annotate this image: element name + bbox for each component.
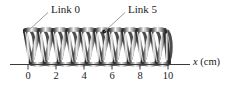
annotation-label-link-5: Link 5 [128, 4, 157, 15]
x-axis-units: (cm) [200, 56, 220, 67]
spring-turn-tops [25, 29, 165, 31]
tick-label-4: 4 [81, 71, 86, 82]
x-axis-label: x (cm) [193, 57, 220, 68]
tick-label-2: 2 [53, 71, 58, 82]
tick-label-8: 8 [137, 71, 142, 82]
tick-label-10: 10 [163, 71, 174, 82]
spring-coil-group [25, 29, 171, 64]
spring-diagram-figure: Link 0 Link 5 x (cm) 0 2 4 6 8 10 [0, 0, 225, 89]
x-axis-variable: x [193, 56, 198, 67]
tick-label-0: 0 [25, 71, 30, 82]
annotation-label-link-0: Link 0 [51, 4, 80, 15]
tick-label-6: 6 [109, 71, 114, 82]
